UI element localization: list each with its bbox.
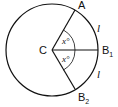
label-b1: B1	[102, 45, 113, 58]
label-angle-lower: x°	[62, 55, 70, 64]
label-center: C	[39, 45, 47, 56]
label-b2: B2	[78, 92, 89, 105]
circle-diagram	[0, 0, 118, 107]
label-arc-lower: l	[97, 69, 100, 80]
label-a: A	[78, 0, 85, 11]
label-arc-upper: l	[97, 23, 100, 34]
label-angle-upper: x°	[62, 37, 70, 46]
